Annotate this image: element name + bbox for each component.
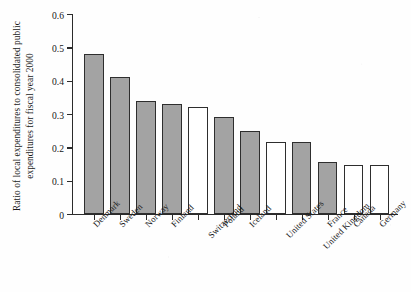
y-axis-tick: 0.4	[67, 81, 72, 82]
y-axis-title: Ratio of local expenditures to consolida…	[0, 0, 46, 232]
bar[interactable]	[240, 131, 259, 214]
bar[interactable]	[84, 54, 103, 214]
y-axis-tick-label: 0	[59, 209, 64, 220]
plot-area: 00.10.20.30.40.50.6 DenmarkSwedenNorwayF…	[72, 14, 398, 214]
bar[interactable]	[110, 77, 129, 214]
y-axis-tick: 0.1	[67, 181, 72, 182]
y-axis-tick-label: 0.4	[52, 76, 64, 87]
y-axis-title-line2: expenditures for fiscal year 2000	[23, 21, 36, 211]
bar[interactable]	[292, 142, 311, 214]
x-axis-tick	[198, 215, 199, 220]
y-axis-tick-label: 0.5	[52, 42, 64, 53]
y-axis-tick-label: 0.1	[52, 176, 64, 187]
y-axis-tick-label: 0.6	[52, 9, 64, 20]
y-axis-tick-label: 0.3	[52, 109, 64, 120]
y-axis-tick: 0.5	[67, 47, 72, 48]
y-axis-tick-label: 0.2	[52, 142, 64, 153]
bar[interactable]	[162, 104, 181, 214]
x-axis-tick	[276, 215, 277, 220]
bar[interactable]	[136, 101, 155, 214]
y-axis-tick: 0.6	[67, 14, 72, 15]
y-axis-line	[72, 14, 73, 214]
y-axis-tick: 0	[67, 214, 72, 215]
bar[interactable]	[214, 117, 233, 214]
bar[interactable]	[188, 107, 207, 214]
y-axis-tick: 0.2	[67, 147, 72, 148]
y-axis-tick: 0.3	[67, 114, 72, 115]
bar-chart-figure: Ratio of local expenditures to consolida…	[0, 0, 411, 292]
bar[interactable]	[266, 142, 285, 214]
y-axis-title-line1: Ratio of local expenditures to consolida…	[12, 21, 22, 211]
